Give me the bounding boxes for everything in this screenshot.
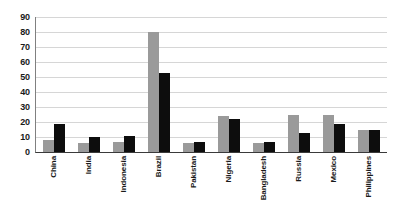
x-axis-tick-label: Philippines [364, 156, 373, 198]
bar-series-2 [194, 142, 205, 153]
x-axis-tick-cell: India [70, 154, 105, 209]
x-axis: ChinaIndiaIndonesiaBrazilPakistanNigeria… [35, 154, 386, 209]
bar-group [141, 17, 176, 152]
bar-series-2 [334, 124, 345, 153]
bar-group [106, 17, 141, 152]
x-axis-tick-label: Bangladesh [259, 156, 268, 200]
bar-group [352, 17, 387, 152]
bar-series-2 [369, 130, 380, 153]
y-axis-tick-label: 50 [0, 73, 30, 82]
y-axis-tick-label: 20 [0, 118, 30, 127]
y-axis-tick-label: 70 [0, 43, 30, 52]
x-axis-tick-label: Russia [294, 156, 303, 182]
x-axis-tick-cell: Mexico [316, 154, 351, 209]
bar-series-2 [264, 142, 275, 153]
bar-series-1 [218, 116, 229, 152]
x-axis-tick-cell: Philippines [351, 154, 386, 209]
bar-series-2 [124, 136, 135, 153]
bar-series-2 [54, 124, 65, 153]
x-axis-tick-cell: Russia [281, 154, 316, 209]
x-axis-tick-cell: Brazil [140, 154, 175, 209]
x-axis-tick-cell: China [35, 154, 70, 209]
bar-chart: 9080706050403020100 ChinaIndiaIndonesiaB… [0, 0, 393, 209]
y-axis-tick-label: 10 [0, 133, 30, 142]
bar-series-1 [43, 140, 54, 152]
bar-series-2 [89, 137, 100, 152]
x-axis-tick-cell: Indonesia [105, 154, 140, 209]
x-axis-tick-label: Mexico [329, 156, 338, 183]
bars-layer [36, 17, 387, 152]
y-axis-tick-label: 80 [0, 28, 30, 37]
bar-group [36, 17, 71, 152]
bar-group [71, 17, 106, 152]
bar-series-1 [183, 143, 194, 152]
bar-series-1 [253, 143, 264, 152]
bar-series-2 [229, 119, 240, 152]
bar-series-2 [299, 133, 310, 153]
x-axis-tick-label: Pakistan [189, 156, 198, 188]
y-axis-tick-label: 90 [0, 13, 30, 22]
y-axis-tick-label: 40 [0, 88, 30, 97]
x-axis-tick-label: China [49, 156, 58, 178]
bar-series-2 [159, 73, 170, 153]
y-axis: 9080706050403020100 [0, 0, 34, 209]
bar-group [317, 17, 352, 152]
x-axis-tick-label: Brazil [154, 156, 163, 177]
bar-series-1 [288, 115, 299, 153]
bar-series-1 [358, 130, 369, 153]
y-axis-tick-label: 30 [0, 103, 30, 112]
x-axis-tick-label: India [84, 156, 93, 174]
x-axis-tick-label: Indonesia [119, 156, 128, 192]
x-axis-tick-label: Nigeria [224, 156, 233, 182]
bar-series-1 [78, 143, 89, 152]
bar-group [247, 17, 282, 152]
x-axis-tick-cell: Pakistan [175, 154, 210, 209]
y-axis-tick-label: 60 [0, 58, 30, 67]
bar-series-1 [323, 115, 334, 153]
plot-area [35, 17, 387, 153]
bar-group [211, 17, 246, 152]
bar-group [282, 17, 317, 152]
x-axis-tick-cell: Nigeria [210, 154, 245, 209]
y-axis-tick-label: 0 [0, 148, 30, 157]
x-axis-tick-cell: Bangladesh [246, 154, 281, 209]
bar-series-1 [148, 32, 159, 152]
bar-series-1 [113, 142, 124, 153]
bar-group [176, 17, 211, 152]
